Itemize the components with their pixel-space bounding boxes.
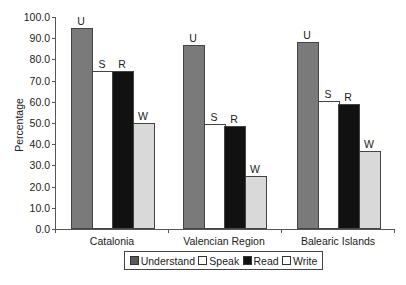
bar-letter-label: W xyxy=(359,138,379,150)
bar-letter-label: R xyxy=(338,91,358,103)
bar-speak-1 xyxy=(92,71,114,229)
legend-label: Read xyxy=(254,255,279,267)
x-tick-mark xyxy=(168,229,169,233)
y-tick-label: 10.0 xyxy=(4,202,50,214)
bar-letter-label: U xyxy=(183,32,203,44)
y-tick-label: 50.0 xyxy=(4,117,50,129)
bar-speak-2 xyxy=(204,124,226,229)
bar-understand-2 xyxy=(183,45,205,229)
bar-letter-label: R xyxy=(224,113,244,125)
bar-letter-label: S xyxy=(204,111,224,123)
bar-letter-label: S xyxy=(92,58,112,70)
y-tick-label: 60.0 xyxy=(4,96,50,108)
legend-label: Write xyxy=(293,255,317,267)
y-tick-label: 100.0 xyxy=(4,11,50,23)
y-tick-label: 30.0 xyxy=(4,159,50,171)
y-tick-mark xyxy=(52,102,56,103)
y-tick-mark xyxy=(52,208,56,209)
bar-read-1 xyxy=(112,71,134,229)
bar-letter-label: W xyxy=(133,110,153,122)
bar-chart: Percentage 0.010.020.030.040.050.060.070… xyxy=(0,0,406,285)
y-tick-mark xyxy=(52,187,56,188)
legend-swatch-write xyxy=(282,256,291,265)
legend-swatch-understand xyxy=(130,256,139,265)
x-tick-mark xyxy=(281,229,282,233)
legend-item-write: Write xyxy=(282,255,317,267)
y-tick-mark xyxy=(52,59,56,60)
bar-letter-label: U xyxy=(71,15,91,27)
bar-write-2 xyxy=(245,176,267,229)
x-tick-mark xyxy=(394,229,395,233)
x-tick-mark xyxy=(55,229,56,233)
legend-item-understand: Understand xyxy=(130,255,195,267)
bar-read-2 xyxy=(224,126,246,229)
y-tick-mark xyxy=(52,165,56,166)
legend-label: Speak xyxy=(209,255,239,267)
y-tick-mark xyxy=(52,81,56,82)
bar-read-3 xyxy=(338,104,360,229)
x-category-label: Catalonia xyxy=(52,235,172,247)
bar-write-3 xyxy=(359,151,381,229)
legend-label: Understand xyxy=(141,255,195,267)
x-axis-line xyxy=(55,229,395,230)
legend-item-speak: Speak xyxy=(198,255,239,267)
legend: Understand Speak Read Write xyxy=(124,251,323,270)
y-tick-mark xyxy=(52,38,56,39)
bar-letter-label: U xyxy=(297,29,317,41)
legend-swatch-read xyxy=(243,256,252,265)
y-tick-mark xyxy=(52,123,56,124)
bar-letter-label: R xyxy=(112,58,132,70)
bar-letter-label: W xyxy=(245,163,265,175)
y-tick-label: 90.0 xyxy=(4,32,50,44)
y-tick-label: 0.0 xyxy=(4,223,50,235)
bar-write-1 xyxy=(133,123,155,229)
y-tick-label: 20.0 xyxy=(4,181,50,193)
x-category-label: Balearic Islands xyxy=(278,235,398,247)
y-tick-label: 40.0 xyxy=(4,138,50,150)
y-tick-label: 80.0 xyxy=(4,53,50,65)
bar-letter-label: S xyxy=(318,88,338,100)
legend-swatch-speak xyxy=(198,256,207,265)
bar-speak-3 xyxy=(318,101,340,229)
legend-item-read: Read xyxy=(243,255,279,267)
bar-understand-3 xyxy=(297,42,319,229)
y-tick-mark xyxy=(52,144,56,145)
bar-understand-1 xyxy=(71,28,93,229)
y-tick-label: 70.0 xyxy=(4,75,50,87)
x-category-label: Valencian Region xyxy=(164,235,284,247)
y-tick-mark xyxy=(52,17,56,18)
